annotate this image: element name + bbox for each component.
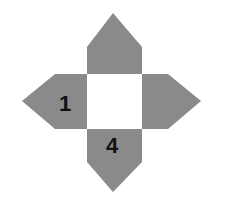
left-face (22, 74, 87, 129)
center-square (87, 74, 142, 129)
bottom-face-label: 4 (106, 133, 119, 158)
pyramid-net-diagram: 1 4 (0, 0, 225, 206)
right-face (142, 74, 201, 129)
top-face (87, 13, 142, 74)
left-face-label: 1 (59, 91, 71, 116)
